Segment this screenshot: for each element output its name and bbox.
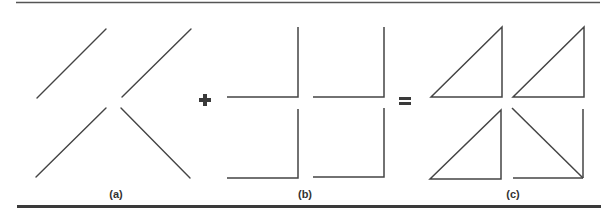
panel-b-corner-bottom-right [313, 108, 384, 177]
plus-operator-icon [199, 94, 211, 106]
panel-a [36, 29, 191, 178]
panel-a-line-bottom-left [36, 108, 106, 177]
panel-c-triangle-top-left [431, 27, 502, 97]
panel-a-line-top-left [37, 29, 106, 98]
panel-a-line-bottom-right [121, 108, 190, 178]
panel-b-corner-bottom-left [227, 109, 298, 178]
panel-c [430, 27, 584, 179]
panel-b-corner-top-left [227, 27, 298, 97]
panel-b-corner-top-right [313, 27, 384, 97]
panel-b [227, 27, 384, 178]
panel-a-line-top-right [122, 29, 191, 97]
panel-c-triangle-bottom-right [512, 108, 583, 178]
equals-operator-icon [399, 97, 411, 105]
diagram-figure: (a) (b) (c) [0, 0, 615, 219]
panel-c-triangle-top-right [513, 27, 584, 97]
panel-c-triangle-bottom-left [430, 110, 501, 179]
panel-c-label: (c) [506, 188, 520, 200]
panel-b-label: (b) [298, 188, 312, 200]
panel-a-label: (a) [109, 188, 123, 200]
